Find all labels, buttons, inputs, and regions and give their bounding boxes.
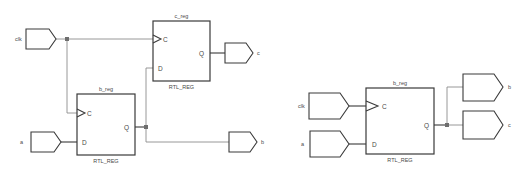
output-port-shape [229,132,257,152]
register-b-reg[interactable]: b_reg C D Q RTL_REG [366,80,434,164]
input-port-a[interactable]: a [20,132,61,152]
port-label: b [261,139,264,145]
output-port-b[interactable]: b [229,132,264,152]
input-port-shape [26,29,56,49]
cell-type: RTL_REG [387,157,412,163]
output-port-shape [463,74,503,101]
instance-name: c_reg [175,13,189,19]
pin-label-data: D [82,139,87,146]
pin-label-out: Q [124,124,129,132]
pin-label-clock: C [87,110,92,117]
wire-bq-to-b [146,127,229,142]
pin-label-clock: C [163,36,168,43]
output-port-shape [463,111,503,139]
output-port-c[interactable]: c [225,43,260,63]
junction-dot [144,125,148,129]
port-label: b [508,84,511,90]
junction-dot [445,123,449,127]
input-port-shape [309,93,349,119]
cell-type: RTL_REG [93,158,118,164]
output-port-b[interactable]: b [463,74,511,101]
wire-q-to-b [447,87,463,125]
schematic-canvas: clk a c_reg C D Q RTL_REG b_reg C D Q RT… [0,0,520,179]
output-port-shape [225,43,253,63]
pin-label-data: D [158,65,163,72]
wire-bq-to-cd [146,68,153,127]
pin-label-clock: C [382,103,387,110]
instance-name: b_reg [393,80,407,86]
port-label: clk [298,103,305,109]
pin-label-data: D [372,141,377,148]
instance-name: b_reg [99,86,113,92]
cell-type: RTL_REG [169,84,194,90]
port-label: a [20,139,24,145]
output-port-c[interactable]: c [463,111,511,139]
input-port-clk[interactable]: clk [298,93,349,119]
port-label: c [508,122,511,128]
input-port-clk[interactable]: clk [15,29,56,49]
register-c-reg[interactable]: c_reg C D Q RTL_REG [153,13,210,90]
wire-clk-branch [67,39,77,113]
pin-label-out: Q [199,50,204,58]
port-label: clk [15,36,22,42]
register-b-reg[interactable]: b_reg C D Q RTL_REG [77,86,135,164]
pin-label-out: Q [424,122,429,130]
input-port-shape [310,131,349,157]
input-port-shape [31,132,61,152]
port-label: a [301,141,305,147]
junction-dot [65,37,69,41]
left-schematic: clk a c_reg C D Q RTL_REG b_reg C D Q RT… [15,13,264,164]
right-schematic: clk a b_reg C D Q RTL_REG b c [298,74,511,163]
input-port-a[interactable]: a [301,131,349,157]
port-label: c [257,50,260,56]
